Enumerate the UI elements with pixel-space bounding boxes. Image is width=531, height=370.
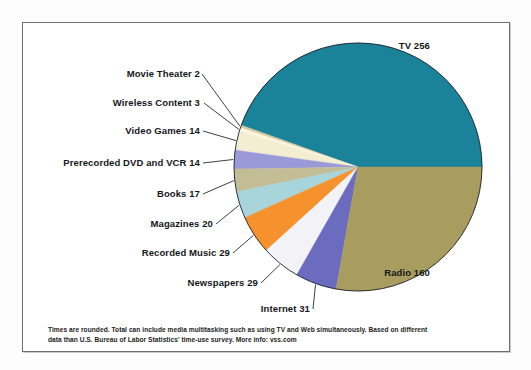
leader-line-video-games [203,131,236,141]
slice-label-recorded-music: Recorded Music 29 [40,247,230,258]
slice-label-magazines: Magazines 20 [40,218,213,229]
leader-line-books [203,181,234,194]
leader-line-recorded-music [233,235,253,253]
footnote-line-1: Times are rounded. Total can include med… [48,325,468,335]
pie-chart-canvas [0,0,531,370]
pie-chart-figure: TV 256 Radio 160 Movie Theater 2 Wireles… [0,0,531,370]
leader-line-prerecorded-dvd-and-vcr [203,159,233,163]
leader-line-wireless-content [204,103,239,129]
slice-label-books: Books 17 [50,188,200,199]
pie-slices [234,43,482,291]
slice-label-newspapers: Newspapers 29 [70,277,258,288]
leader-line-newspapers [261,265,280,283]
slice-label-wireless-content: Wireless Content 3 [20,97,200,108]
slice-label-tv: TV 256 [330,40,430,51]
leader-line-magazines [216,205,239,224]
slice-label-radio: Radio 160 [330,267,430,278]
slice-label-video-games: Video Games 14 [30,125,200,136]
slice-label-internet: Internet 31 [160,303,310,314]
leader-line-movie-theater [202,74,240,126]
slice-label-prerecorded-dvd-vcr: Prerecorded DVD and VCR 14 [20,157,200,168]
footnote: Times are rounded. Total can include med… [48,325,468,344]
slice-label-movie-theater: Movie Theater 2 [30,68,200,79]
leader-line-internet [313,285,316,309]
footnote-line-2: data than U.S. Bureau of Labor Statistic… [48,335,468,345]
